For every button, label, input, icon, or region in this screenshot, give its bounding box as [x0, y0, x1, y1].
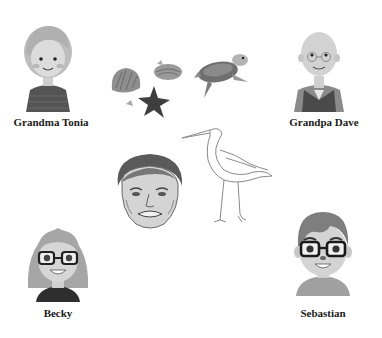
becky-label: Becky	[28, 307, 88, 319]
sea-turtle-icon	[194, 50, 254, 104]
sebastian-avatar-icon	[292, 206, 354, 296]
grandpa-avatar-icon	[292, 24, 346, 112]
grandma-avatar-icon	[22, 16, 74, 112]
becky-illustration	[26, 222, 90, 302]
grandma-tonia-illustration	[22, 16, 74, 112]
seashells-starfish-icon	[108, 60, 188, 122]
becky-avatar-icon	[26, 222, 90, 302]
seashells-starfish-illustration	[108, 60, 188, 122]
grandpa-dave-illustration	[292, 24, 346, 112]
grandpa-dave-label: Grandpa Dave	[282, 116, 366, 128]
sebastian-label: Sebastian	[288, 307, 358, 319]
sebastian-illustration	[292, 206, 354, 296]
egret-bird-icon	[180, 124, 272, 224]
sea-turtle-illustration	[194, 50, 254, 104]
man-portrait-illustration	[112, 150, 188, 230]
egret-illustration	[180, 124, 272, 224]
grandma-tonia-label: Grandma Tonia	[8, 116, 94, 128]
man-portrait-sketch-icon	[112, 150, 188, 230]
